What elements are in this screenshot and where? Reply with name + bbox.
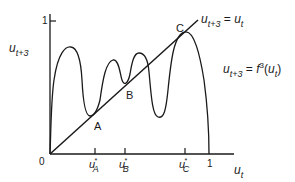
- curve-arg-var: u: [268, 62, 275, 76]
- x-tick-label: 1: [207, 159, 213, 169]
- y-axis-label: ut+3: [9, 42, 28, 54]
- uc-star-label: u*C: [179, 159, 189, 170]
- point-a-label: A: [94, 121, 101, 132]
- diagonal-line: [50, 20, 198, 154]
- uc-sub: C: [183, 164, 190, 174]
- uc-star: *: [184, 157, 187, 164]
- curve-lhs-sub: t+3: [230, 69, 243, 79]
- curve-paren-close: ): [277, 62, 281, 76]
- ub-star: *: [124, 157, 127, 164]
- diagonal-equation: ut+3 = ut: [201, 13, 243, 25]
- ub-sub: B: [123, 164, 129, 174]
- ua-sub: A: [93, 164, 99, 174]
- diag-rhs-var: u: [234, 12, 241, 26]
- y-tick-label: 1: [42, 16, 48, 26]
- diag-lhs-var: u: [201, 12, 208, 26]
- curve-lhs-var: u: [223, 62, 230, 76]
- curve-eq: =: [242, 62, 256, 76]
- origin-label: 0: [39, 157, 45, 167]
- point-c-label: C: [176, 23, 184, 34]
- diagram-canvas: [0, 0, 295, 182]
- point-b-label: B: [126, 90, 133, 101]
- diag-eq: =: [220, 12, 234, 26]
- x-axis-label: ut: [234, 164, 243, 176]
- curve-arg-sub: t: [275, 69, 278, 79]
- curve-equation: ut+3 = f3(ut): [223, 63, 281, 75]
- ua-star: *: [94, 157, 97, 164]
- curve-sup: 3: [259, 61, 263, 70]
- diag-rhs-sub: t: [241, 19, 244, 29]
- x-axis-sub: t: [241, 170, 244, 180]
- y-axis-sub: t+3: [16, 48, 29, 58]
- ub-star-label: u*B: [119, 159, 129, 170]
- diag-lhs-sub: t+3: [208, 19, 221, 29]
- ua-star-label: u*A: [89, 159, 99, 170]
- x-axis-var: u: [234, 163, 241, 177]
- y-axis-var: u: [9, 41, 16, 55]
